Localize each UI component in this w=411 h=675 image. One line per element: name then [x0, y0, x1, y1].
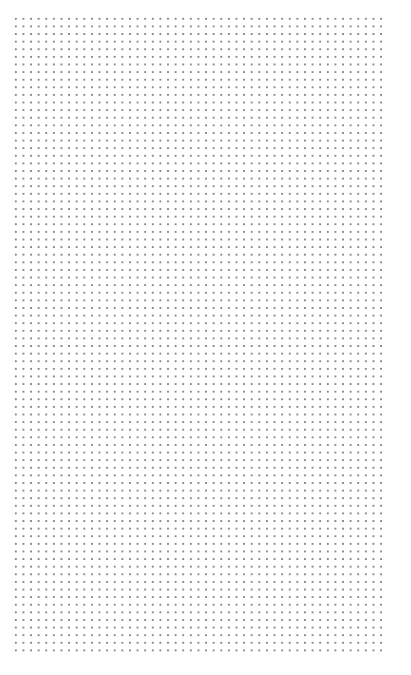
- dot-grid-canvas: [12, 15, 386, 655]
